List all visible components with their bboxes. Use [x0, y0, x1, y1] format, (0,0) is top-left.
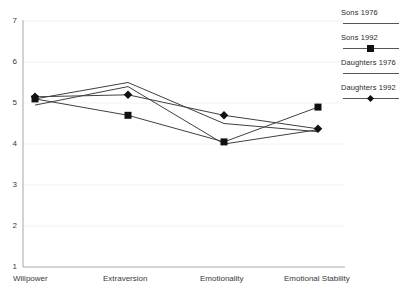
ytick-3: 3: [5, 180, 17, 189]
series-sons-1976: [35, 83, 318, 132]
ytick-7: 7: [5, 16, 17, 25]
legend-entry-daughters-1976[interactable]: Daughters 1976: [341, 58, 411, 79]
xtick-willpower: Willpower: [13, 274, 48, 283]
ytick-5: 5: [5, 98, 17, 107]
series-line: [35, 87, 318, 144]
gridlines: [23, 21, 345, 226]
legend-swatch-daughters-1976: [343, 68, 399, 79]
legend-entry-sons-1992[interactable]: Sons 1992: [341, 33, 411, 54]
legend-label-sons-1976: Sons 1976: [341, 8, 411, 18]
series-daughters-1976: [35, 87, 318, 144]
diamond-marker: [220, 111, 228, 119]
diamond-marker-icon: [367, 94, 374, 101]
legend-swatch-sons-1976: [343, 18, 399, 29]
square-marker-icon: [367, 45, 374, 52]
series-line: [35, 83, 318, 132]
square-marker: [221, 138, 228, 145]
xtick-emotionality: Emotionality: [200, 274, 244, 283]
ytick-2: 2: [5, 221, 17, 230]
square-marker: [315, 104, 322, 111]
square-marker: [125, 112, 132, 119]
ytick-6: 6: [5, 57, 17, 66]
legend-label-sons-1992: Sons 1992: [341, 33, 411, 43]
xtick-emotional-stability: Emotional Stability: [284, 274, 350, 283]
xtick-extraversion: Extraversion: [103, 274, 147, 283]
ytick-1: 1: [5, 262, 17, 271]
legend-label-daughters-1992: Daughters 1992: [341, 83, 411, 93]
legend-swatch-sons-1992: [343, 43, 399, 54]
legend-entry-sons-1976[interactable]: Sons 1976: [341, 8, 411, 29]
legend-line-icon: [343, 73, 399, 74]
chart-legend: Sons 1976 Sons 1992 Daughters 1976 Daugh…: [341, 8, 411, 108]
legend-swatch-daughters-1992: [343, 93, 399, 104]
ytick-4: 4: [5, 139, 17, 148]
legend-label-daughters-1976: Daughters 1976: [341, 58, 411, 68]
legend-entry-daughters-1992[interactable]: Daughters 1992: [341, 83, 411, 104]
legend-line-icon: [343, 23, 399, 24]
diamond-marker: [124, 91, 132, 99]
series-line: [35, 95, 318, 129]
line-chart: 7 6 5 4 3 2 1 Willpower Extraversion Emo…: [0, 0, 411, 299]
